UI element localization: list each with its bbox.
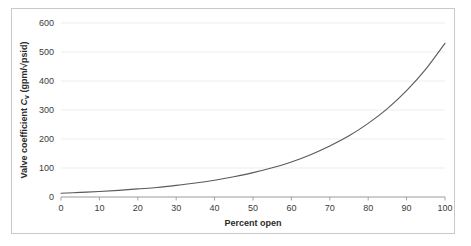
y-tick-label: 0: [49, 192, 54, 202]
y-tick-label: 100: [39, 163, 54, 173]
x-axis-ticks: 0102030405060708090100: [58, 197, 452, 213]
x-tick-label: 50: [248, 203, 258, 213]
y-axis-title: Valve coefficient Cv (gpm/√psid): [19, 42, 30, 179]
x-tick-label: 90: [402, 203, 412, 213]
x-tick-label: 0: [58, 203, 63, 213]
chart-plot: 0100200300400500600 01020304050607080901…: [12, 9, 454, 233]
x-tick-label: 40: [210, 203, 220, 213]
chart-figure: 0100200300400500600 01020304050607080901…: [11, 8, 455, 234]
y-tick-label: 400: [39, 76, 54, 86]
x-tick-label: 70: [325, 203, 335, 213]
y-axis-ticks: 0100200300400500600: [39, 18, 54, 202]
y-tick-label: 600: [39, 18, 54, 28]
x-tick-label: 80: [363, 203, 373, 213]
x-tick-label: 100: [437, 203, 452, 213]
valve-characteristic-curve: [61, 43, 445, 193]
y-tick-label: 300: [39, 105, 54, 115]
x-tick-label: 10: [94, 203, 104, 213]
y-tick-label: 200: [39, 134, 54, 144]
x-tick-label: 60: [286, 203, 296, 213]
y-tick-label: 500: [39, 47, 54, 57]
x-tick-label: 20: [133, 203, 143, 213]
gridlines: [61, 23, 445, 197]
x-tick-label: 30: [171, 203, 181, 213]
x-axis-title: Percent open: [224, 218, 281, 228]
